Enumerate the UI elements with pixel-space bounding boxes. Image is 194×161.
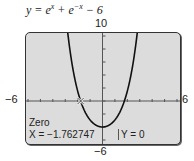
trace-mode: Zero [29,117,50,128]
calculator-screen: Zero X = −1.762747 Y = 0 [25,32,181,145]
y-min-label: −6 [94,145,107,157]
x-max-label: 6 [182,93,188,105]
y-max-label: 10 [95,17,107,29]
trace-y-value: Y = 0 [118,129,144,140]
x-min-label: −6 [5,93,18,105]
trace-x-value: X = −1.762747 [29,129,95,140]
chart-title: y = ex + e−x − 6 [26,2,103,18]
